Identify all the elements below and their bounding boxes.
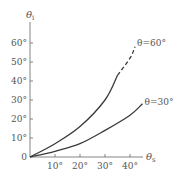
line-chart: 10°20°30°40°010°20°30°40°50°60° θiθsθ=60… xyxy=(0,0,180,179)
chart-container: 10°20°30°40°010°20°30°40°50°60° θiθsθ=60… xyxy=(0,0,180,179)
y-tick-label: 30° xyxy=(11,95,27,105)
series-group xyxy=(30,47,143,157)
x-tick-label: 10° xyxy=(47,161,63,171)
x-tick-label: 20° xyxy=(72,161,88,171)
labels: θiθsθ=60°θ=30° xyxy=(26,9,173,164)
y-axis-label: θi xyxy=(26,9,35,22)
x-tick-label: 30° xyxy=(97,161,113,171)
y-tick-label: 0 xyxy=(21,152,27,162)
y-tick-label: 40° xyxy=(11,76,27,86)
y-tick-label: 60° xyxy=(11,38,27,48)
axes xyxy=(30,22,143,157)
y-tick-label: 20° xyxy=(11,114,27,124)
y-tick-label: 50° xyxy=(11,57,27,67)
series-line xyxy=(30,104,143,157)
series-line-dashed xyxy=(118,47,136,76)
x-tick-label: 40° xyxy=(122,161,138,171)
series-line-solid xyxy=(30,75,118,157)
y-tick-label: 10° xyxy=(11,133,27,143)
series-label: θ=60° xyxy=(137,38,166,48)
x-axis-label: θs xyxy=(146,151,156,164)
series-label: θ=30° xyxy=(145,97,174,107)
